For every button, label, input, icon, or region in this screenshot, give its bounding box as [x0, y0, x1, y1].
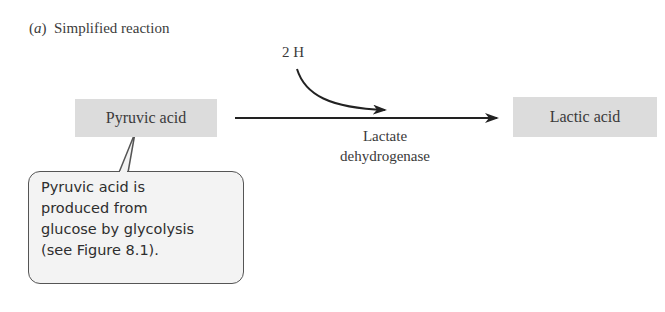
callout-note: Pyruvic acid is produced from glucose by…	[28, 171, 244, 284]
lactic-acid-box: Lactic acid	[513, 97, 657, 137]
callout-pointer	[119, 133, 135, 173]
callout-line: produced from	[41, 198, 235, 219]
enzyme-line-2: dehydrogenase	[300, 146, 470, 166]
callout-line: glucose by glycolysis	[41, 219, 235, 240]
enzyme-line-1: Lactate	[300, 126, 470, 146]
pyruvic-acid-box: Pyruvic acid	[75, 99, 217, 137]
cofactor-label: 2 H	[282, 44, 304, 61]
pointer-join	[120, 171, 127, 174]
cofactor-arrow	[297, 69, 385, 110]
callout-line: (see Figure 8.1).	[41, 240, 235, 261]
substrate-label: Pyruvic acid	[106, 109, 186, 127]
enzyme-label: Lactate dehydrogenase	[300, 126, 470, 166]
product-label: Lactic acid	[550, 108, 621, 126]
callout-line: Pyruvic acid is	[41, 177, 235, 198]
